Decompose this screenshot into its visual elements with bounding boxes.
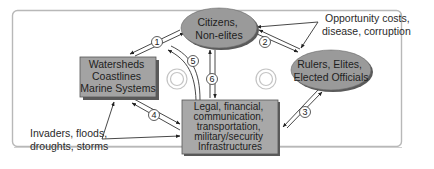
svg-text:1: 1 — [154, 37, 159, 47]
svg-text:3: 3 — [302, 107, 307, 117]
svg-text:5: 5 — [190, 56, 195, 66]
node-citizens-label: Citizens, Non-elites — [195, 16, 242, 41]
node-infrastructures-label: Legal, financial, communication, transpo… — [194, 101, 267, 152]
edge-badge-3: 3 — [300, 107, 311, 118]
svg-text:4: 4 — [151, 110, 156, 120]
svg-text:2: 2 — [262, 37, 267, 47]
edge-badge-6: 6 — [207, 74, 218, 85]
systems-diagram: Watersheds Coastlines Marine Systems Leg… — [0, 0, 434, 169]
annotation-invaders: Invaders, floods, droughts, storms — [30, 127, 110, 152]
edge-badge-1: 1 — [152, 37, 163, 48]
edge-badge-5: 5 — [188, 56, 199, 67]
node-rulers-label: Rulers, Elites, Elected Officials — [293, 58, 368, 83]
node-rulers — [291, 50, 371, 90]
annotation-opportunity-costs: Opportunity costs, disease, corruption — [322, 12, 413, 37]
node-citizens — [181, 8, 257, 48]
edge-badge-2: 2 — [260, 37, 271, 48]
svg-text:6: 6 — [209, 74, 214, 84]
edge-badge-4: 4 — [149, 110, 160, 121]
